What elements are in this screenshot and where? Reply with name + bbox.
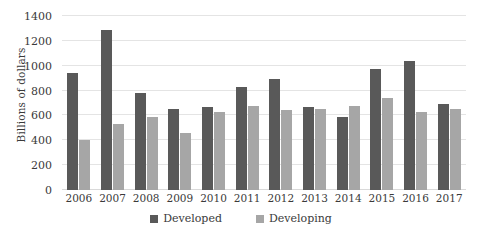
bar-developing-2010[interactable] [214,112,225,190]
bar-group [399,16,433,190]
bar-developed-2010[interactable] [202,107,213,190]
legend-item-developing[interactable]: Developing [256,212,332,225]
x-axis-tick-label: 2010 [197,192,231,204]
bar-developing-2007[interactable] [113,124,124,190]
bar-developed-2007[interactable] [101,30,112,190]
bar-group [230,16,264,190]
y-axis-tick-label: 1200 [24,34,52,47]
bar-developed-2014[interactable] [337,117,348,190]
bar-developed-2006[interactable] [67,73,78,190]
y-axis-tick-label: 1000 [24,59,52,72]
bar-group [129,16,163,190]
bar-group [331,16,365,190]
x-axis-tick-label: 2007 [96,192,130,204]
y-axis-tick-label: 200 [31,159,52,172]
bar-developed-2011[interactable] [236,87,247,190]
bar-group [432,16,466,190]
bar-developing-2006[interactable] [79,140,90,190]
x-axis-tick-label: 2013 [298,192,332,204]
bar-group [62,16,96,190]
legend-swatch-icon [150,215,158,223]
x-axis-tick-label: 2009 [163,192,197,204]
bar-developing-2017[interactable] [450,109,461,190]
bar-developed-2015[interactable] [370,69,381,190]
y-axis-tick-label: 600 [31,109,52,122]
bar-developing-2012[interactable] [281,110,292,190]
bar-developed-2016[interactable] [404,61,415,190]
bar-developing-2011[interactable] [248,106,259,191]
x-axis-tick-label: 2014 [331,192,365,204]
bar-group [365,16,399,190]
legend-item-developed[interactable]: Developed [150,212,222,225]
bar-developed-2012[interactable] [269,79,280,190]
legend-label: Developed [163,212,222,225]
y-axis-ticks: 1400120010008006004002000 [0,16,58,190]
bar-developed-2013[interactable] [303,107,314,190]
chart-legend: DevelopedDeveloping [0,212,482,225]
bar-developing-2014[interactable] [349,106,360,190]
y-axis-tick-label: 1400 [24,10,52,23]
x-axis-tick-label: 2008 [129,192,163,204]
bar-developing-2016[interactable] [416,112,427,190]
x-axis-tick-label: 2011 [230,192,264,204]
bar-developed-2017[interactable] [438,104,449,190]
bar-group [264,16,298,190]
bar-developing-2015[interactable] [382,98,393,190]
bar-group [96,16,130,190]
x-axis-tick-label: 2006 [62,192,96,204]
legend-label: Developing [269,212,332,225]
x-axis-tick-label: 2012 [264,192,298,204]
y-axis-tick-label: 0 [45,184,52,197]
x-axis-tick-label: 2015 [365,192,399,204]
bar-developing-2013[interactable] [315,109,326,190]
bar-developed-2009[interactable] [168,109,179,190]
y-axis-tick-label: 400 [31,134,52,147]
bars-layer [62,16,466,190]
y-axis-tick-label: 800 [31,84,52,97]
legend-swatch-icon [256,215,264,223]
bar-developed-2008[interactable] [135,93,146,190]
plot-area [62,16,466,190]
x-axis-tick-label: 2017 [432,192,466,204]
bar-developing-2009[interactable] [180,133,191,190]
x-axis-labels: 2006200720082009201020112012201320142015… [62,192,466,204]
x-axis-tick-label: 2016 [399,192,433,204]
bar-group [197,16,231,190]
bar-chart: Billions of dollars 14001200100080060040… [0,0,482,241]
bar-developing-2008[interactable] [147,117,158,190]
bar-group [163,16,197,190]
bar-group [298,16,332,190]
